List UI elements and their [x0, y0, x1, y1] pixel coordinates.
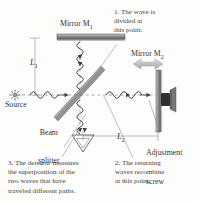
adjustment-screw-knob	[161, 87, 176, 112]
beam-splitter-plate	[54, 66, 105, 121]
length-L1-label: L1	[30, 57, 38, 70]
interferometer-figure: Mirror M1 Mirror M2 Source Beam splitter…	[0, 0, 199, 202]
wave-output-vertical	[77, 100, 87, 134]
starburst-lamp-icon	[10, 90, 21, 101]
wave-arm1-vertical	[77, 42, 84, 90]
adjustment-screw-label-line1: Adjustment	[146, 148, 182, 158]
wave-arm2-horizontal	[106, 92, 151, 99]
callout-note-1: 1. The wave is divided at this point.	[114, 8, 190, 36]
beam-splitter-label-line1: Beam	[38, 128, 60, 137]
mirror-1-label: Mirror M1	[60, 19, 93, 31]
source-label: Source	[5, 100, 27, 109]
mirror-2-label: Mirror M2	[131, 49, 164, 61]
callout-note-3: 3. The detector measures the superpositi…	[8, 159, 112, 196]
callout-note-2: 2. The returning waves recombine at this…	[115, 159, 195, 187]
length-L2-label: L2	[117, 131, 125, 144]
